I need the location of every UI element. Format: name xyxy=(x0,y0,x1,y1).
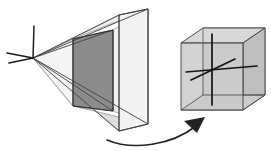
eye-axes-group xyxy=(7,26,34,63)
canonical-cube-group xyxy=(181,28,265,110)
axis-depth-icon xyxy=(9,58,33,63)
view-frustum-group xyxy=(7,9,148,131)
axis-left-icon xyxy=(7,53,33,58)
far-clipping-plane xyxy=(119,9,148,131)
eye-point-marker xyxy=(32,57,34,59)
diagram-canvas xyxy=(0,0,271,151)
axis-up-icon xyxy=(33,26,34,58)
figure-root: Perspective view frustum mapped to canon… xyxy=(0,0,271,151)
transform-arrow-head xyxy=(184,117,205,133)
